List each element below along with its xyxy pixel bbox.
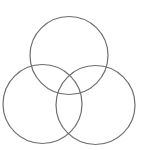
- venn-diagram: [0, 0, 141, 150]
- venn-circle-top: [30, 17, 108, 95]
- venn-circle-bottom-left: [3, 65, 82, 144]
- venn-circle-bottom-right: [56, 66, 135, 145]
